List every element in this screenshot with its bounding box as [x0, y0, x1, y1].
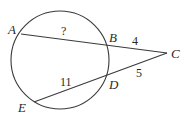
circle	[11, 11, 109, 109]
point-label-b: B	[109, 30, 117, 45]
segment-bc-length: 4	[132, 34, 138, 48]
segment-dc-length: 5	[136, 66, 142, 80]
segment-ab-length: ?	[61, 24, 66, 38]
segment-ed-length: 11	[60, 75, 72, 89]
point-label-c: C	[171, 46, 180, 61]
point-label-a: A	[7, 22, 16, 37]
point-label-e: E	[17, 100, 26, 115]
point-label-d: D	[108, 77, 119, 92]
circle-secant-diagram: A B C D E ? 4 5 11	[0, 0, 189, 118]
secant-line-ac	[21, 34, 167, 53]
secant-line-ec	[34, 53, 167, 102]
